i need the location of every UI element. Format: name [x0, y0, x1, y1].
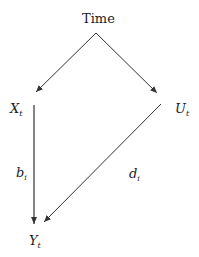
edge-label-d-subscript: i [137, 174, 140, 183]
node-y-subscript: t [38, 241, 41, 250]
edge-label-b-subscript: i [24, 173, 27, 182]
node-u-subscript: t [186, 109, 189, 118]
node-x-subscript: t [19, 109, 22, 118]
node-y: Yt [29, 234, 41, 247]
node-x: Xt [10, 102, 22, 115]
edge-time-to-u [96, 33, 157, 93]
edge-label-d: di [129, 167, 140, 180]
node-u-label: U [175, 101, 186, 116]
node-x-label: X [10, 101, 19, 116]
edge-u-to-y [44, 104, 161, 222]
node-u: Ut [175, 102, 189, 115]
edge-time-to-x [36, 33, 96, 92]
diagram-canvas [0, 0, 199, 257]
node-y-label: Y [29, 233, 38, 248]
node-time: Time [82, 12, 115, 25]
edge-label-b: bi [16, 166, 27, 179]
